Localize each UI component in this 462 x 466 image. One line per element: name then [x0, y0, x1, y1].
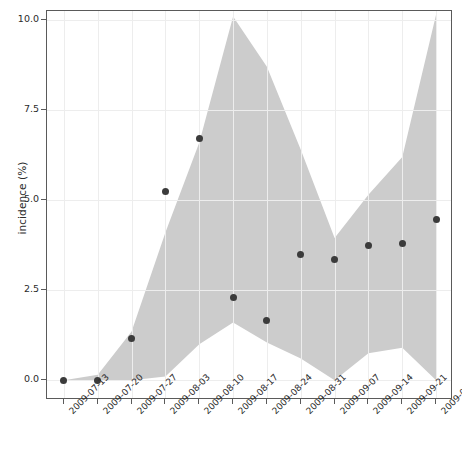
plot-area: [46, 10, 452, 399]
x-axis-tick-label: 2009-08-17: [236, 409, 243, 416]
gridline-vertical: [267, 11, 268, 398]
credible-interval-band: [47, 11, 452, 399]
x-axis-tick-label: 2009-09-21: [405, 409, 412, 416]
x-axis-tick: [164, 399, 165, 404]
x-axis-tick-label: 2009-08-31: [304, 409, 311, 416]
data-point: [365, 242, 372, 249]
y-axis-tick-label: 10.0: [5, 13, 39, 24]
gridline-vertical: [199, 11, 200, 398]
x-axis-tick-label: 2009-07-27: [135, 409, 142, 416]
x-axis-tick-label: 2009-07-20: [101, 409, 108, 416]
data-point: [399, 240, 406, 247]
data-point: [230, 294, 237, 301]
gridline-vertical: [335, 11, 336, 398]
x-axis-tick-label: 2009-09-28: [439, 409, 446, 416]
x-axis-tick: [435, 399, 436, 404]
gridline-horizontal: [47, 200, 451, 201]
x-axis-tick: [131, 399, 132, 404]
gridline-vertical: [368, 11, 369, 398]
x-axis-tick: [198, 399, 199, 404]
x-axis-tick-label: 2009-08-03: [168, 409, 175, 416]
data-point: [433, 216, 440, 223]
x-axis-tick: [300, 399, 301, 404]
gridline-vertical: [436, 11, 437, 398]
x-axis-tick: [63, 399, 64, 404]
y-axis-tick: [41, 379, 46, 380]
x-axis-tick: [97, 399, 98, 404]
gridline-vertical: [402, 11, 403, 398]
gridline-horizontal: [47, 110, 451, 111]
x-axis-tick-label: 2009-09-07: [338, 409, 345, 416]
gridline-vertical: [301, 11, 302, 398]
gridline-vertical: [165, 11, 166, 398]
x-axis-tick-label: 2009-09-14: [371, 409, 378, 416]
gridline-horizontal: [47, 290, 451, 291]
x-axis-tick-label: 2009-07-13: [67, 409, 74, 416]
incidence-chart-figure: incidence (%) 0.02.55.07.510.0 2009-07-1…: [0, 0, 462, 466]
x-axis-tick: [232, 399, 233, 404]
y-axis-tick-label: 2.5: [5, 283, 39, 294]
gridline-vertical: [64, 11, 65, 398]
data-point: [162, 188, 169, 195]
gridline-vertical: [98, 11, 99, 398]
y-axis-tick: [41, 109, 46, 110]
y-axis-tick-label: 0.0: [5, 373, 39, 384]
y-axis-tick: [41, 19, 46, 20]
x-axis-tick-label: 2009-08-10: [202, 409, 209, 416]
y-axis-tick-label: 7.5: [5, 103, 39, 114]
x-axis-tick-label: 2009-08-24: [270, 409, 277, 416]
x-axis-tick: [401, 399, 402, 404]
y-axis-tick-labels: 0.02.55.07.510.0: [0, 0, 39, 466]
y-axis-tick: [41, 199, 46, 200]
gridline-vertical: [233, 11, 234, 398]
data-point: [297, 251, 304, 258]
gridline-horizontal: [47, 20, 451, 21]
y-axis-tick-label: 5.0: [5, 193, 39, 204]
x-axis-tick: [334, 399, 335, 404]
x-axis-tick: [266, 399, 267, 404]
x-axis-tick: [367, 399, 368, 404]
y-axis-tick: [41, 289, 46, 290]
